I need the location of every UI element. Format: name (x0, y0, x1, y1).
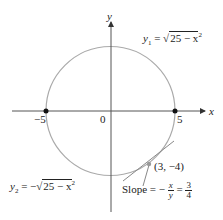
slope-equation: Slope = − xy = 34 (122, 181, 192, 200)
x-axis-label: x (209, 106, 214, 117)
slope-eq1: = − (147, 183, 165, 195)
point-label: (3, −4) (154, 161, 184, 172)
eq-exp: 2 (198, 31, 202, 39)
circle-diagram: y x −5 5 0 y1 = √25 − x2 y2 = −√25 − x2 … (0, 0, 223, 220)
eq-sign: = (151, 32, 163, 44)
origin-label: 0 (100, 114, 106, 125)
lower-equation: y2 = −√25 − x2 (10, 180, 75, 195)
eq-radical: 25 − x (169, 31, 198, 44)
tick-neg5: −5 (34, 114, 46, 125)
eq-sign: = − (18, 180, 36, 192)
slope-word: Slope (122, 183, 147, 195)
tick-pos5: 5 (177, 114, 183, 125)
upper-equation: y1 = √25 − x2 (143, 32, 202, 47)
y-axis-label: y (107, 11, 112, 22)
fraction-3-over-4: 34 (185, 181, 192, 200)
point-3-neg4 (147, 162, 151, 166)
eq-exp: 2 (72, 179, 76, 187)
slope-eq2: = (174, 183, 186, 195)
eq-radical: 25 − x (42, 179, 71, 192)
frac-den: 4 (185, 191, 192, 200)
